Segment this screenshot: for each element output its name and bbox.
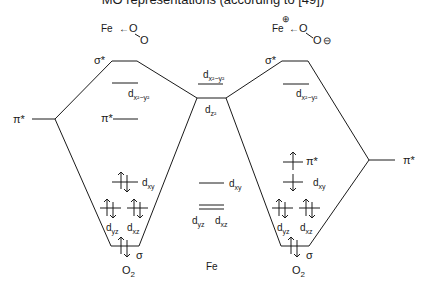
svg-text:σ: σ: [136, 249, 143, 261]
mo-diagram: MO representations (according to [49]) F…: [0, 0, 426, 295]
svg-text:dx²−y²: dx²−y²: [296, 88, 318, 102]
svg-text:dyz: dyz: [106, 222, 119, 236]
svg-text:Fe: Fe: [101, 23, 113, 34]
fe-center: dx²−y² dz² dxy dyz dxz Fe: [192, 69, 242, 272]
svg-text:π*: π*: [101, 112, 114, 124]
svg-text:O: O: [140, 34, 149, 46]
svg-text:π*: π*: [403, 154, 416, 166]
left-complex: π* σ* dx²−y² π* dxy dyz dxz σ O2: [13, 54, 155, 279]
svg-text:σ*: σ*: [265, 54, 277, 66]
svg-text:π*: π*: [306, 155, 319, 167]
svg-text:σ*: σ*: [94, 54, 106, 66]
left-structure: Fe ← O O: [101, 22, 149, 46]
svg-text:dxz: dxz: [215, 215, 228, 228]
svg-text:←: ←: [119, 23, 129, 34]
svg-text:dxy: dxy: [142, 177, 155, 191]
svg-text:π*: π*: [13, 113, 26, 125]
svg-text:dxy: dxy: [313, 177, 326, 191]
svg-text:Fe: Fe: [206, 261, 218, 272]
svg-text:O: O: [299, 22, 308, 34]
svg-text:dx²−y²: dx²−y²: [128, 88, 150, 102]
svg-text:dxy: dxy: [229, 178, 242, 192]
svg-text:O2: O2: [122, 264, 136, 279]
svg-text:dz²: dz²: [205, 104, 217, 117]
svg-text:σ: σ: [306, 249, 313, 261]
svg-text:O: O: [313, 34, 322, 46]
correlation-lines: [32, 61, 395, 246]
svg-text:⊖: ⊖: [323, 35, 331, 46]
svg-text:Fe: Fe: [272, 23, 284, 34]
svg-text:dyz: dyz: [277, 222, 290, 236]
svg-text:dxz: dxz: [300, 222, 313, 235]
svg-text:dx²−y²: dx²−y²: [203, 69, 225, 83]
svg-text:O: O: [129, 22, 138, 34]
svg-text:←: ←: [289, 23, 299, 34]
svg-text:dyz: dyz: [192, 215, 205, 229]
svg-text:O2: O2: [292, 264, 306, 279]
right-complex: σ* dx²−y² π* dxy dyz dxz σ O2 π*: [265, 54, 416, 279]
svg-text:dxz: dxz: [127, 222, 140, 235]
title: MO representations (according to [49]): [102, 0, 325, 7]
right-structure: Fe ⊕ ← O O ⊖: [272, 14, 331, 46]
